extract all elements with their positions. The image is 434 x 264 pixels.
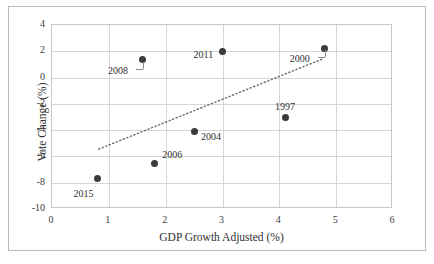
y-tick-label: -8 <box>5 177 45 187</box>
x-tick-label: 1 <box>93 215 123 225</box>
leader-line-vertical <box>325 50 326 57</box>
data-point-label: 1997 <box>275 102 295 112</box>
data-point-label: 2004 <box>201 132 221 142</box>
y-tick-label: -10 <box>5 203 45 213</box>
data-point-label: 2015 <box>73 189 93 199</box>
x-tick-label: 4 <box>263 215 293 225</box>
x-tick-label: 5 <box>320 215 350 225</box>
data-point-label: 2000 <box>290 54 310 64</box>
leader-line-horizontal <box>318 57 325 58</box>
x-tick-label: 6 <box>377 215 407 225</box>
y-tick-label: 4 <box>5 19 45 29</box>
data-point-label: 2008 <box>108 66 128 76</box>
y-tick-label: -4 <box>5 124 45 134</box>
data-point-marker <box>191 128 198 135</box>
data-point-label: 2006 <box>162 150 182 160</box>
x-tick-label: 3 <box>207 215 237 225</box>
y-tick-label: -6 <box>5 150 45 160</box>
y-tick-label: 2 <box>5 45 45 55</box>
data-point-marker <box>282 114 289 121</box>
chart-figure: Vote Change (%) 420-2-4-6-8-10 201520082… <box>0 0 434 264</box>
y-tick-label: -2 <box>5 98 45 108</box>
x-tick-label: 0 <box>36 215 66 225</box>
y-tick-label: 0 <box>5 72 45 82</box>
leader-line-vertical <box>143 62 144 69</box>
x-axis-title: GDP Growth Adjusted (%) <box>51 231 392 243</box>
leader-line-horizontal <box>136 69 143 70</box>
data-point-marker <box>151 160 158 167</box>
plot-area: 2015200820062004201119972000 <box>51 24 392 208</box>
data-point-label: 2011 <box>194 50 214 60</box>
x-tick-label: 2 <box>150 215 180 225</box>
